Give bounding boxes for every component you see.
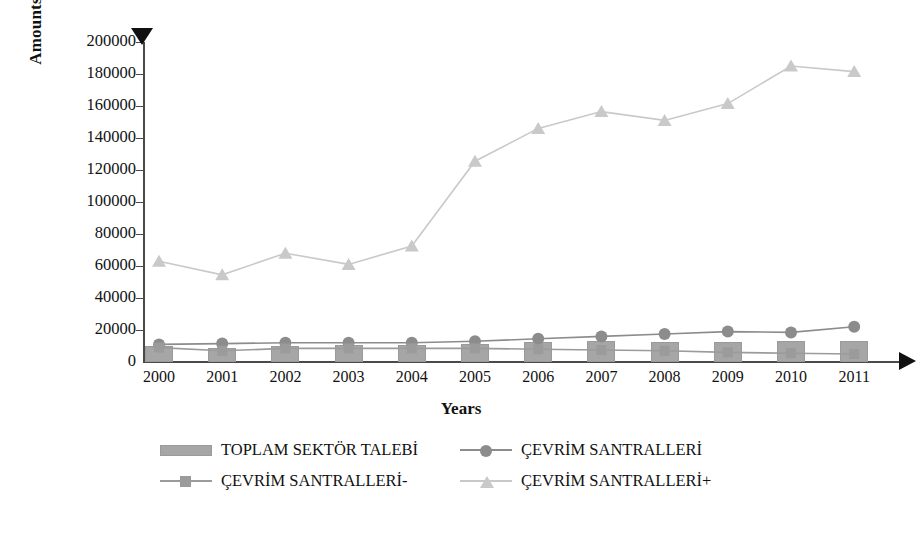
marker-triangle-2004 [405,240,419,252]
legend-label-3: ÇEVRİM SANTRALLERİ+ [521,471,711,491]
x-tick-label-2006: 2006 [503,368,573,386]
marker-square-2003 [344,343,354,353]
marker-circle-2008 [659,328,671,340]
legend-row-1: TOPLAM SEKTÖR TALEBİ ÇEVRİM SANTRALLERİ [160,440,860,460]
x-axis-title: Years [0,399,922,419]
x-tick-label-2007: 2007 [566,368,636,386]
marker-triangle-2007 [594,105,608,117]
y-tick-label-60000: 60000 [44,257,136,274]
marker-circle-2007 [595,330,607,342]
marker-circle-2011 [848,321,860,333]
legend-row-2: ÇEVRİM SANTRALLERİ- ÇEVRİM SANTRALLERİ+ [160,471,860,491]
legend-item-toplam-sektor-talebi[interactable]: TOPLAM SEKTÖR TALEBİ [160,440,460,460]
line-series-1 [154,343,859,359]
marker-square-2010 [786,348,796,358]
y-tick-label-100000: 100000 [44,193,136,210]
y-tick-label-200000: 200000 [44,33,136,50]
marker-square-2001 [217,346,227,356]
marker-square-2005 [470,343,480,353]
line-series-group [143,42,908,362]
marker-triangle-2009 [721,97,735,109]
legend-swatch-square [160,474,212,488]
legend-item-cevrim-santralleri-minus[interactable]: ÇEVRİM SANTRALLERİ- [160,471,460,491]
marker-triangle-2000 [152,255,166,267]
line-series-2 [152,60,861,281]
marker-square-2002 [280,343,290,353]
legend-label-1: ÇEVRİM SANTRALLERİ [521,440,702,460]
y-tick-label-20000: 20000 [44,321,136,338]
marker-square-2004 [407,343,417,353]
legend-label-2: ÇEVRİM SANTRALLERİ- [221,471,408,491]
marker-triangle-2005 [468,155,482,167]
legend-item-cevrim-santralleri[interactable]: ÇEVRİM SANTRALLERİ [460,440,760,460]
marker-square-2000 [154,343,164,353]
legend-swatch-bar [160,443,212,457]
marker-square-2006 [533,344,543,354]
chart-figure: Amounts (kTOE) 0200004000060000800001000… [0,0,922,534]
y-tick-label-160000: 160000 [44,97,136,114]
marker-circle-2010 [785,326,797,338]
y-tick-label-180000: 180000 [44,65,136,82]
y-tick-label-0: 0 [44,353,136,370]
marker-circle-2009 [722,326,734,338]
x-tick-label-2011: 2011 [819,368,889,386]
y-axis-tick-labels: 0200004000060000800001000001200001400001… [36,0,136,534]
plot-area [143,42,908,362]
x-tick-label-2004: 2004 [377,368,447,386]
x-tick-label-2001: 2001 [187,368,257,386]
x-tick-label-2000: 2000 [124,368,194,386]
chart-legend: TOPLAM SEKTÖR TALEBİ ÇEVRİM SANTRALLERİ … [160,440,860,502]
legend-swatch-circle [460,443,512,457]
x-tick-label-2008: 2008 [630,368,700,386]
legend-swatch-triangle [460,474,512,488]
marker-square-2011 [849,349,859,359]
x-tick-label-2002: 2002 [250,368,320,386]
legend-item-cevrim-santralleri-plus[interactable]: ÇEVRİM SANTRALLERİ+ [460,471,760,491]
marker-circle-2006 [532,333,544,345]
marker-square-2007 [596,345,606,355]
y-tick-label-140000: 140000 [44,129,136,146]
x-tick-label-2009: 2009 [693,368,763,386]
legend-label-0: TOPLAM SEKTÖR TALEBİ [221,440,418,460]
marker-triangle-2002 [278,247,292,259]
x-tick-label-2005: 2005 [440,368,510,386]
x-tick-label-2003: 2003 [314,368,384,386]
y-tick-label-120000: 120000 [44,161,136,178]
marker-square-2008 [660,346,670,356]
line-series-0 [153,321,860,351]
y-tick-label-40000: 40000 [44,289,136,306]
x-tick-label-2010: 2010 [756,368,826,386]
marker-square-2009 [723,347,733,357]
marker-triangle-2010 [784,60,798,72]
y-tick-label-80000: 80000 [44,225,136,242]
